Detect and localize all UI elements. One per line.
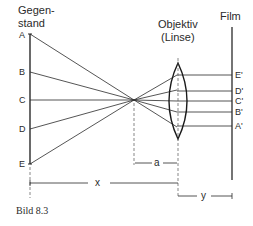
- object-title-line1: Gegen-: [18, 4, 55, 16]
- dimension-y: y: [178, 190, 232, 201]
- dimension-x-label: x: [95, 177, 100, 188]
- lens-title-line2: (Linse): [161, 31, 195, 43]
- image-point-d: D': [235, 86, 243, 96]
- object-point-c: C: [19, 95, 26, 105]
- dimension-x: x: [30, 177, 178, 188]
- image-point-c: C': [235, 96, 243, 106]
- object-title-line2: stand: [18, 17, 45, 29]
- object-point-a: A: [19, 30, 25, 40]
- image-point-a: A': [235, 121, 243, 131]
- figure-caption: Bild 8.3: [16, 205, 48, 216]
- image-point-b: B': [235, 107, 243, 117]
- optics-diagram: Gegen- stand Objektiv (Linse) Film A B C…: [0, 0, 253, 226]
- image-points: E' D' C' B' A': [235, 70, 243, 131]
- dimension-a-label: a: [154, 157, 160, 168]
- object-point-d: D: [19, 124, 26, 134]
- dimension-y-label: y: [201, 190, 206, 201]
- object-point-e: E: [19, 159, 25, 169]
- lens-title-line1: Objektiv: [158, 18, 198, 30]
- film-title: Film: [220, 10, 241, 22]
- image-point-e: E': [235, 70, 243, 80]
- incoming-rays: [30, 34, 134, 164]
- object-point-b: B: [19, 67, 25, 77]
- dimension-a: a: [135, 157, 177, 168]
